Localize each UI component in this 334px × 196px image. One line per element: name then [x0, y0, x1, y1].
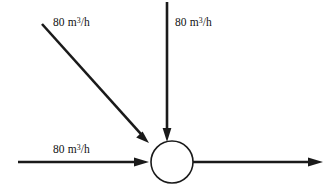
diagonal-inlet-arrowhead [136, 132, 149, 143]
diagonal-inlet-line [42, 24, 142, 135]
diagonal-inlet-unit-prefix: m [65, 16, 77, 28]
vertical-inlet-unit-suffix: /h [203, 16, 212, 28]
outlet-arrow [193, 157, 323, 166]
diagonal-inlet-label: 80 m3/h [53, 17, 90, 29]
horizontal-inlet-unit-suffix: /h [81, 143, 90, 155]
horizontal-inlet-unit-prefix: m [65, 143, 77, 155]
vertical-inlet-arrowhead [163, 128, 172, 142]
outlet-arrowhead [308, 157, 323, 166]
diagonal-inlet-unit-suffix: /h [81, 16, 90, 28]
flow-junction-diagram: 80 m3/h 80 m3/h 80 m3/h [0, 0, 334, 196]
diagonal-inlet-arrow [42, 24, 149, 143]
horizontal-inlet-arrowhead [134, 157, 149, 166]
diagonal-inlet-value: 80 [53, 16, 65, 28]
horizontal-inlet-value: 80 [53, 143, 65, 155]
horizontal-inlet-arrow [18, 157, 149, 166]
horizontal-inlet-label: 80 m3/h [53, 144, 90, 156]
vertical-inlet-unit-prefix: m [187, 16, 199, 28]
junction-node [151, 141, 193, 183]
vertical-inlet-arrow [163, 2, 172, 142]
vertical-inlet-value: 80 [175, 16, 187, 28]
flow-diagram-canvas [0, 0, 334, 196]
vertical-inlet-label: 80 m3/h [175, 17, 212, 29]
